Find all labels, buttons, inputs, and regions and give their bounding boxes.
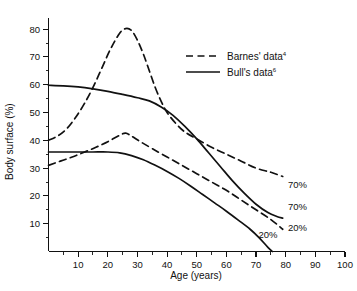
y-tick-label: 10 [29,218,40,229]
x-tick-label: 10 [73,259,84,270]
x-axis-title: Age (years) [170,270,222,281]
x-tick-label: 80 [280,259,291,270]
y-tick-label: 70 [29,51,40,62]
legend-label-0: Barnes' data4 [227,51,287,62]
chart-legend: Barnes' data4Bull's data6 [186,51,287,78]
data-series-group [49,28,283,251]
x-tick-label: 60 [221,259,232,270]
series-line-3 [49,152,273,252]
x-axis-ticks [63,252,345,258]
curve-label-1: 70% [288,201,308,212]
x-tick-label: 40 [162,259,173,270]
x-tick-label: 50 [191,259,202,270]
y-tick-label: 40 [29,135,40,146]
x-tick-label: 30 [132,259,143,270]
y-tick-label: 50 [29,107,40,118]
x-axis: 102030405060708090100 Age (years) [49,252,353,282]
x-tick-label: 100 [337,259,353,270]
curve-label-2: 20% [288,222,308,233]
series-line-2 [49,133,283,229]
x-axis-tick-labels: 102030405060708090100 [73,259,353,270]
y-axis-ticks [43,29,49,237]
y-tick-label: 20 [29,190,40,201]
y-tick-label: 60 [29,79,40,90]
line-chart: 1020304050607080 Body surface (%) 102030… [0,0,357,291]
curve-annotations: 70%70%20%20% [258,179,307,240]
curve-label-0: 70% [288,179,308,190]
legend-superscript-1: 6 [273,67,277,73]
y-axis-tick-labels: 1020304050607080 [29,24,40,230]
y-tick-label: 30 [29,163,40,174]
x-tick-label: 70 [251,259,262,270]
legend-superscript-0: 4 [283,51,287,57]
chart-figure: 1020304050607080 Body surface (%) 102030… [0,0,357,291]
y-tick-label: 80 [29,24,40,35]
curve-label-3: 20% [258,229,278,240]
y-axis: 1020304050607080 Body surface (%) [4,18,49,251]
x-tick-label: 20 [103,259,114,270]
legend-label-1: Bull's data6 [227,67,277,78]
x-tick-label: 90 [310,259,321,270]
y-axis-title: Body surface (%) [4,103,15,180]
